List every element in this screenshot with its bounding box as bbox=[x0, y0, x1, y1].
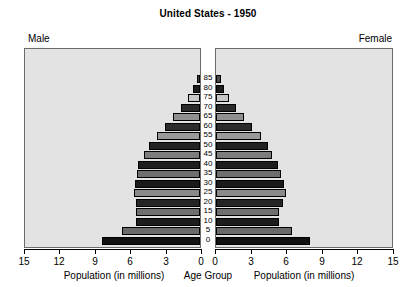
bar-female-age-25 bbox=[216, 189, 286, 197]
bar-male-age-45 bbox=[144, 151, 200, 159]
tick-mark-male-9 bbox=[95, 249, 96, 254]
tick-mark-male-6 bbox=[130, 249, 131, 254]
age-group-axis: 8580757065605550454035302520151050 bbox=[201, 48, 215, 248]
bar-female-age-35 bbox=[216, 170, 281, 178]
tick-label-male-0: 0 bbox=[198, 256, 204, 267]
tick-label-male-12: 12 bbox=[53, 256, 64, 267]
tick-label-female-9: 9 bbox=[319, 256, 325, 267]
tick-mark-male-3 bbox=[166, 249, 167, 254]
chart-title: United States - 1950 bbox=[0, 8, 416, 19]
bar-male-age-60 bbox=[165, 123, 200, 131]
tick-label-male-15: 15 bbox=[18, 256, 29, 267]
age-group-label-20: 20 bbox=[201, 198, 215, 206]
bar-female-age-85 bbox=[216, 75, 221, 83]
age-group-label-75: 75 bbox=[201, 93, 215, 101]
age-group-label-0: 0 bbox=[201, 236, 215, 244]
tick-mark-female-6 bbox=[286, 249, 287, 254]
tick-mark-female-3 bbox=[251, 249, 252, 254]
bar-female-age-30 bbox=[216, 180, 284, 188]
bar-female-age-45 bbox=[216, 151, 272, 159]
tick-label-female-12: 12 bbox=[351, 256, 362, 267]
bar-male-age-25 bbox=[134, 189, 201, 197]
center-axis-caption: Age Group bbox=[184, 270, 232, 281]
tick-mark-female-12 bbox=[357, 249, 358, 254]
age-group-label-60: 60 bbox=[201, 122, 215, 130]
age-group-label-35: 35 bbox=[201, 169, 215, 177]
male-bars-group bbox=[25, 49, 200, 247]
male-panel-label: Male bbox=[28, 33, 50, 44]
tick-label-female-15: 15 bbox=[387, 256, 398, 267]
bar-male-age-30 bbox=[135, 180, 200, 188]
age-group-label-10: 10 bbox=[201, 217, 215, 225]
female-panel-label: Female bbox=[359, 33, 392, 44]
bar-male-age-50 bbox=[149, 142, 200, 150]
female-x-axis-line bbox=[215, 249, 393, 250]
bar-female-age-55 bbox=[216, 132, 261, 140]
age-group-label-65: 65 bbox=[201, 112, 215, 120]
bar-male-age-70 bbox=[181, 104, 200, 112]
tick-label-female-6: 6 bbox=[283, 256, 289, 267]
male-axis-caption: Population (in millions) bbox=[64, 270, 165, 281]
bar-female-age-0 bbox=[216, 237, 310, 245]
bar-female-age-80 bbox=[216, 85, 224, 93]
bar-male-age-80 bbox=[193, 85, 200, 93]
female-bars-group bbox=[216, 49, 392, 247]
bar-female-age-50 bbox=[216, 142, 268, 150]
bar-male-age-40 bbox=[138, 161, 200, 169]
bar-female-age-20 bbox=[216, 199, 283, 207]
age-group-label-40: 40 bbox=[201, 160, 215, 168]
bar-female-age-5 bbox=[216, 227, 292, 235]
female-plot-panel bbox=[215, 48, 393, 248]
bar-male-age-10 bbox=[136, 218, 200, 226]
bar-female-age-10 bbox=[216, 218, 279, 226]
bar-female-age-70 bbox=[216, 104, 236, 112]
bar-male-age-20 bbox=[136, 199, 200, 207]
tick-label-male-9: 9 bbox=[92, 256, 98, 267]
age-group-label-70: 70 bbox=[201, 103, 215, 111]
tick-label-female-0: 0 bbox=[212, 256, 218, 267]
bar-male-age-5 bbox=[122, 227, 200, 235]
tick-label-male-6: 6 bbox=[127, 256, 133, 267]
tick-mark-male-0 bbox=[201, 249, 202, 254]
male-plot-panel bbox=[24, 48, 201, 248]
age-group-label-15: 15 bbox=[201, 207, 215, 215]
bar-female-age-65 bbox=[216, 113, 244, 121]
bar-female-age-60 bbox=[216, 123, 252, 131]
age-group-label-50: 50 bbox=[201, 141, 215, 149]
age-group-label-45: 45 bbox=[201, 150, 215, 158]
age-group-label-30: 30 bbox=[201, 179, 215, 187]
population-pyramid-chart: United States - 1950 Male Female 8580757… bbox=[0, 0, 416, 287]
bar-male-age-15 bbox=[136, 208, 200, 216]
age-group-label-85: 85 bbox=[201, 74, 215, 82]
age-group-label-55: 55 bbox=[201, 131, 215, 139]
bar-male-age-85 bbox=[197, 75, 201, 83]
bar-male-age-55 bbox=[157, 132, 200, 140]
tick-label-male-3: 3 bbox=[163, 256, 169, 267]
tick-label-female-3: 3 bbox=[248, 256, 254, 267]
bar-female-age-15 bbox=[216, 208, 279, 216]
tick-mark-male-12 bbox=[59, 249, 60, 254]
bar-male-age-75 bbox=[188, 94, 200, 102]
age-group-label-5: 5 bbox=[201, 226, 215, 234]
age-group-label-25: 25 bbox=[201, 188, 215, 196]
tick-mark-female-9 bbox=[322, 249, 323, 254]
male-x-axis-line bbox=[24, 249, 201, 250]
bar-male-age-0 bbox=[102, 237, 200, 245]
tick-mark-female-0 bbox=[215, 249, 216, 254]
tick-mark-male-15 bbox=[24, 249, 25, 254]
bar-male-age-65 bbox=[173, 113, 200, 121]
bar-female-age-75 bbox=[216, 94, 229, 102]
bar-female-age-40 bbox=[216, 161, 278, 169]
age-group-label-80: 80 bbox=[201, 84, 215, 92]
tick-mark-female-15 bbox=[393, 249, 394, 254]
bar-male-age-35 bbox=[137, 170, 200, 178]
female-axis-caption: Population (in millions) bbox=[254, 270, 355, 281]
